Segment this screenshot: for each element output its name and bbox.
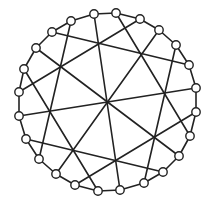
graph-node bbox=[172, 41, 180, 49]
graph-node bbox=[116, 186, 124, 194]
circular-graph-diagram bbox=[0, 0, 217, 206]
graph-node bbox=[94, 187, 102, 195]
graph-node bbox=[22, 135, 30, 143]
graph-node bbox=[136, 15, 144, 23]
graph-node bbox=[71, 181, 79, 189]
graph-node bbox=[67, 17, 75, 25]
graph-node bbox=[15, 88, 23, 96]
graph-node bbox=[90, 10, 98, 18]
graph-node bbox=[186, 132, 194, 140]
graph-node bbox=[15, 112, 23, 120]
graph-node bbox=[20, 65, 28, 73]
graph-node bbox=[192, 84, 200, 92]
graph-node bbox=[159, 168, 167, 176]
chord-edge bbox=[144, 45, 176, 183]
graph-node bbox=[192, 108, 200, 116]
graph-node bbox=[175, 152, 183, 160]
graph-node bbox=[32, 44, 40, 52]
graph-node bbox=[155, 26, 163, 34]
graph-node bbox=[140, 179, 148, 187]
graph-node bbox=[35, 155, 43, 163]
graph-node bbox=[112, 9, 120, 17]
graph-node bbox=[52, 170, 60, 178]
graph-node bbox=[185, 61, 193, 69]
graph-node bbox=[48, 28, 56, 36]
